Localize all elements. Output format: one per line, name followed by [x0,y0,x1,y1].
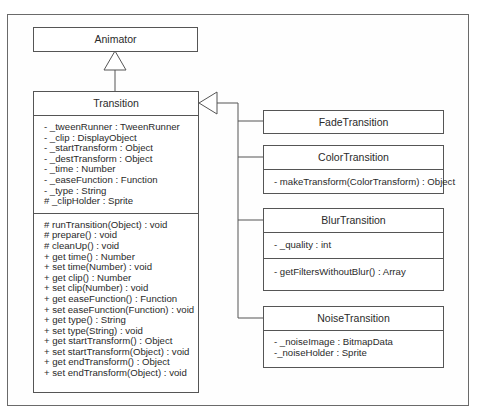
class-fade-transition: FadeTransition [263,110,444,134]
class-name: FadeTransition [264,111,443,134]
methods-section: - getFiltersWithoutBlur() : Array [264,258,443,283]
class-noise-transition: NoiseTransition - _noiseImage : BitmapDa… [263,306,444,368]
method: - makeTransform(ColorTransform) : Object [274,177,443,188]
class-name: BlurTransition [264,209,443,232]
method: + set endTransform(Object) : void [44,368,198,379]
attributes-section: - _noiseImage : BitmapData -_noiseHolder… [264,330,443,363]
methods-section: # runTransition(Object) : void # prepare… [34,213,198,384]
class-name: NoiseTransition [264,307,443,330]
attributes-section: - _tweenRunner : TweenRunner - _clip : D… [34,115,198,213]
attribute: - _easeFunction : Function [44,175,198,186]
method: - getFiltersWithoutBlur() : Array [274,267,443,278]
attributes-section: - _quality : int [264,232,443,258]
attribute: - _noiseImage : BitmapData [274,337,443,348]
methods-section: - makeTransform(ColorTransform) : Object [264,169,443,193]
class-transition: Transition - _tweenRunner : TweenRunner … [33,91,199,393]
class-color-transition: ColorTransition - makeTransform(ColorTra… [263,145,444,194]
attribute: - _tweenRunner : TweenRunner [44,122,198,133]
attribute: # _clipHolder : Sprite [44,196,198,207]
method: # cleanUp() : void [44,241,198,252]
class-name: Animator [34,28,197,51]
class-animator: Animator [33,27,198,52]
method: + get easeFunction() : Function [44,294,198,305]
attribute: - _quality : int [274,240,443,251]
attribute: -_noiseHolder : Sprite [274,348,443,359]
class-name: ColorTransition [264,146,443,169]
class-blur-transition: BlurTransition - _quality : int - getFil… [263,208,444,291]
class-name: Transition [34,92,198,115]
